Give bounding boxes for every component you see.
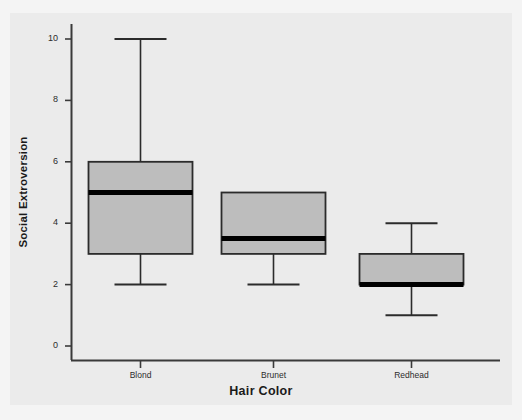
- y-tick-label-2: 2: [28, 279, 58, 289]
- x-tick-label-blond: Blond: [81, 370, 201, 380]
- y-tick-label-0: 0: [28, 340, 58, 350]
- y-tick-label-10: 10: [28, 33, 58, 43]
- x-axis-title: Hair Color: [0, 384, 522, 398]
- plot-area: 10 8 6 4 2 0 Blond Brunet Redhead Social…: [0, 0, 522, 420]
- y-tick-label-4: 4: [28, 217, 58, 227]
- box-blond[interactable]: [89, 39, 193, 285]
- x-tick-label-brunet: Brunet: [214, 370, 334, 380]
- box-redhead[interactable]: [360, 223, 464, 315]
- y-tick-label-8: 8: [28, 94, 58, 104]
- y-tick-marks: [65, 39, 71, 346]
- box-rect-blond[interactable]: [89, 162, 193, 254]
- chart-canvas: [0, 0, 522, 420]
- y-axis-title: Social Extroversion: [17, 112, 29, 272]
- boxplot-figure: 10 8 6 4 2 0 Blond Brunet Redhead Social…: [0, 0, 522, 420]
- box-rect-brunet[interactable]: [222, 193, 326, 254]
- box-rect-redhead[interactable]: [360, 254, 464, 285]
- box-brunet[interactable]: [222, 193, 326, 285]
- y-tick-label-6: 6: [28, 156, 58, 166]
- x-tick-label-redhead: Redhead: [352, 370, 472, 380]
